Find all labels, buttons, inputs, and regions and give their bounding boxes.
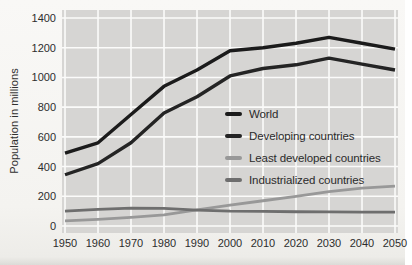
legend: WorldDeveloping countriesLeast developed…	[225, 103, 381, 191]
legend-label: Developing countries	[249, 130, 354, 142]
legend-label: World	[249, 108, 278, 120]
legend-swatch-world	[225, 112, 242, 115]
plot-area: WorldDeveloping countriesLeast developed…	[62, 10, 398, 233]
legend-label: Least developed countries	[249, 152, 381, 164]
y-tick-label: 600	[14, 130, 56, 144]
legend-swatch-developing-countries	[225, 134, 242, 137]
legend-item-least-developed-countries: Least developed countries	[225, 147, 381, 169]
legend-item-industrialized-countries: Industrialized countries	[225, 169, 381, 191]
y-tick-label: 200	[14, 189, 56, 203]
y-tick-label: 400	[14, 160, 56, 174]
x-tick-label: 2050	[375, 236, 412, 250]
scan-shadow-artifact	[0, 257, 405, 265]
y-tick-label: 1200	[14, 41, 56, 55]
legend-item-developing-countries: Developing countries	[225, 125, 381, 147]
legend-label: Industrialized countries	[249, 174, 364, 186]
y-tick-label: 800	[14, 100, 56, 114]
legend-swatch-least-developed-countries	[225, 156, 242, 159]
legend-item-world: World	[225, 103, 381, 125]
y-tick-label: 0	[14, 219, 56, 233]
y-tick-label: 1400	[14, 11, 56, 25]
legend-swatch-industrialized-countries	[225, 178, 242, 181]
y-tick-label: 1000	[14, 70, 56, 84]
